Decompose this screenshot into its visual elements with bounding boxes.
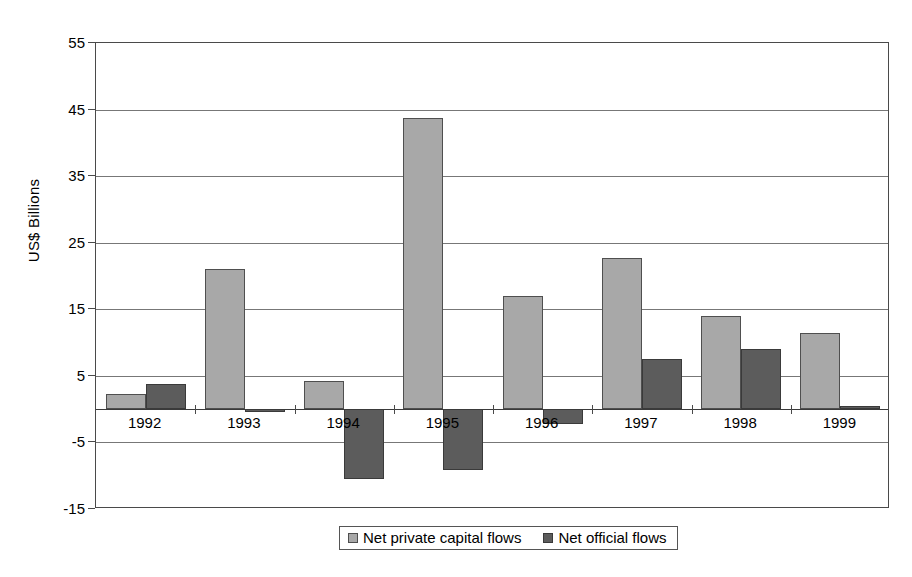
bar-1997-official [642, 359, 682, 409]
x-axis-tick-mark [295, 405, 296, 414]
y-axis-tick-mark [88, 508, 95, 509]
y-axis-tick-label: 45 [33, 100, 85, 117]
y-axis-title: US$ Billions [25, 141, 42, 301]
x-axis-label-1992: 1992 [128, 414, 161, 431]
y-axis-tick-mark [88, 175, 95, 176]
y-axis-tick-label: -15 [33, 500, 85, 517]
x-axis-tick-mark [592, 405, 593, 414]
y-axis-tick-mark [88, 42, 95, 43]
bar-1993-official [245, 409, 285, 412]
bar-1992-official [146, 384, 186, 409]
bar-1999-private [800, 333, 840, 410]
legend-label-private: Net private capital flows [363, 530, 521, 545]
y-axis-tick-label: -5 [33, 433, 85, 450]
bar-1997-private [602, 258, 642, 409]
x-axis-label-1995: 1995 [426, 414, 459, 431]
y-axis-tick-label: 55 [33, 34, 85, 51]
y-axis-tick-label: 25 [33, 233, 85, 250]
x-axis-label-1993: 1993 [227, 414, 260, 431]
y-axis-tick-mark [88, 441, 95, 442]
plot-area [95, 42, 889, 508]
y-axis-tick-label: 35 [33, 167, 85, 184]
x-axis-tick-mark [791, 405, 792, 414]
x-axis-label-1994: 1994 [326, 414, 359, 431]
bar-1994-private [304, 381, 344, 410]
bar-1999-official [840, 406, 880, 409]
bar-group [96, 43, 888, 507]
y-axis-tick-label: 15 [33, 300, 85, 317]
legend-item-private: Net private capital flows [348, 530, 521, 545]
x-axis-label-1998: 1998 [723, 414, 756, 431]
x-axis-tick-mark [692, 405, 693, 414]
x-axis-tick-mark [195, 405, 196, 414]
bar-1992-private [106, 394, 146, 409]
x-axis-tick-mark [493, 405, 494, 414]
bar-1993-private [205, 269, 245, 409]
x-axis-label-1997: 1997 [624, 414, 657, 431]
legend-item-official: Net official flows [543, 530, 666, 545]
x-axis-tick-mark [394, 405, 395, 414]
chart-legend: Net private capital flows Net official f… [339, 526, 678, 550]
bar-1998-private [701, 316, 741, 409]
bar-1995-private [403, 118, 443, 409]
x-axis-label-1999: 1999 [823, 414, 856, 431]
bar-1996-private [503, 296, 543, 409]
x-axis-label-1996: 1996 [525, 414, 558, 431]
y-axis-tick-label: 5 [33, 366, 85, 383]
bar-1998-official [741, 349, 781, 409]
y-axis-tick-mark [88, 109, 95, 110]
legend-swatch-official-icon [543, 533, 553, 543]
legend-swatch-private-icon [348, 533, 358, 543]
y-axis-tick-mark [88, 375, 95, 376]
chart-figure: US$ Billions 55453525155-5-15 1992199319… [0, 0, 912, 577]
y-axis-tick-mark [88, 242, 95, 243]
y-axis-tick-mark [88, 308, 95, 309]
legend-label-official: Net official flows [558, 530, 666, 545]
